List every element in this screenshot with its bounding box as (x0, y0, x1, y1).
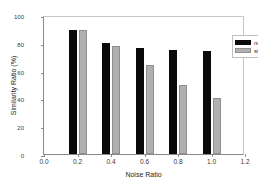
bar-structure-0.8 (179, 85, 187, 155)
bar-node-0.6 (136, 48, 144, 154)
legend-label-structure: structure (254, 48, 258, 54)
legend-label-node: node (254, 40, 258, 46)
bar-structure-0.2 (79, 30, 87, 154)
x-tick-label: 0.8 (163, 158, 193, 165)
y-tick-label: 0 (0, 153, 24, 159)
bar-structure-1.0 (213, 98, 221, 154)
x-tick-label: 0.6 (130, 158, 160, 165)
x-tick-mark (245, 154, 246, 157)
legend-swatch-structure-icon (235, 48, 251, 53)
x-tick-label: 0.0 (29, 158, 59, 165)
similarity-ratio-bar-chart: 020406080100 Similarity Ratio (%) 0.00.2… (0, 0, 258, 185)
x-tick-mark (212, 154, 213, 157)
legend-swatch-node-icon (235, 40, 251, 45)
chart-legend: node structure (232, 35, 258, 58)
bar-node-1.0 (203, 51, 211, 154)
x-tick-label: 0.2 (63, 158, 93, 165)
x-axis-title: Noise Ratio (44, 171, 243, 178)
x-tick-mark (178, 154, 179, 157)
bars-layer (44, 17, 243, 154)
x-tick-mark (111, 154, 112, 157)
x-tick-label: 1.2 (230, 158, 258, 165)
bar-node-0.8 (169, 50, 177, 154)
bar-structure-0.4 (112, 46, 120, 154)
legend-item-node: node (235, 39, 258, 46)
x-tick-label: 1.0 (197, 158, 227, 165)
x-tick-mark (78, 154, 79, 157)
x-tick-mark (145, 154, 146, 157)
legend-item-structure: structure (235, 47, 258, 54)
x-tick-mark (44, 154, 45, 157)
bar-node-0.2 (69, 30, 77, 154)
x-tick-label: 0.4 (96, 158, 126, 165)
bar-node-0.4 (102, 43, 110, 154)
bar-structure-0.6 (146, 65, 154, 154)
plot-area: 020406080100 Similarity Ratio (%) 0.00.2… (43, 16, 244, 155)
y-axis-title: Similarity Ratio (%) (10, 25, 17, 145)
y-tick-label: 100 (0, 14, 24, 20)
